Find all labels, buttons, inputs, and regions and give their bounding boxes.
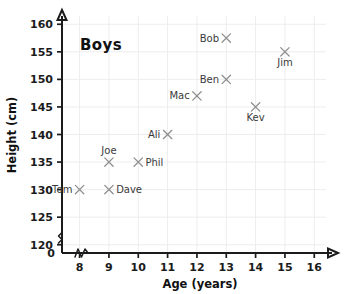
x-axis-ticks: 8910111213141516 [76, 253, 322, 274]
data-point-label: Dave [116, 184, 142, 195]
data-point-group: TomDaveJoePhilAliMacBenBobKevJim [51, 33, 293, 196]
x-tick-label: 14 [248, 261, 264, 274]
data-point-label: Jim [276, 57, 292, 68]
x-tick-label: 10 [131, 261, 147, 274]
y-tick-label: 160 [30, 18, 53, 31]
x-tick-label: 15 [277, 261, 292, 274]
y-tick-label: 145 [30, 101, 53, 114]
data-point[interactable]: Ali [148, 129, 172, 140]
x-tick-label: 12 [189, 261, 204, 274]
y-tick-label: 125 [30, 211, 53, 224]
y-tick-label: 130 [30, 184, 53, 197]
x-axis-title: Age (years) [162, 277, 237, 291]
data-point[interactable]: Joe [100, 145, 116, 166]
data-point-label: Ali [148, 129, 160, 140]
y-tick-label: 150 [30, 73, 53, 86]
scatter-chart: 120125130135140145150155160 891011121314… [0, 0, 346, 294]
data-point-label: Bob [200, 33, 219, 44]
x-tick-label: 11 [160, 261, 175, 274]
y-tick-label: 135 [30, 156, 53, 169]
y-tick-label: 155 [30, 46, 53, 59]
plot-title: Boys [80, 36, 122, 54]
data-point-label: Phil [145, 157, 163, 168]
data-point-label: Tom [51, 184, 72, 195]
chart-canvas: 120125130135140145150155160 891011121314… [0, 0, 346, 294]
y-axis-title: Height (cm) [5, 97, 19, 174]
data-point[interactable]: Tom [51, 184, 84, 195]
data-point-label: Kev [247, 112, 265, 123]
data-point-label: Mac [169, 90, 189, 101]
x-tick-label: 8 [76, 261, 84, 274]
x-tick-label: 13 [219, 261, 234, 274]
y-axis-ticks: 120125130135140145150155160 [30, 18, 62, 251]
data-point-label: Joe [100, 145, 116, 156]
x-tick-label: 16 [307, 261, 323, 274]
x-tick-label: 9 [105, 261, 113, 274]
data-point[interactable]: Mac [169, 90, 201, 101]
y-tick-label: 140 [30, 129, 53, 142]
data-point-label: Ben [200, 74, 219, 85]
data-point[interactable]: Jim [276, 48, 292, 68]
origin-tick-label: 0 [47, 247, 55, 260]
